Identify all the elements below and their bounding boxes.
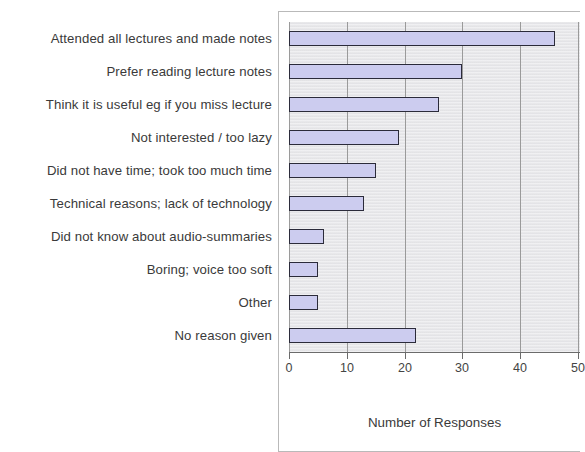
bar-slot [289, 22, 580, 57]
bar[interactable] [289, 328, 416, 343]
bar[interactable] [289, 196, 364, 211]
x-tick-label: 10 [340, 361, 354, 375]
bar-slot [289, 220, 580, 255]
x-tick-label: 0 [286, 361, 293, 375]
bar-slot [289, 121, 580, 156]
bar-slot [289, 55, 580, 90]
x-tick-mark [520, 353, 521, 359]
x-tick-label: 40 [513, 361, 527, 375]
bar[interactable] [289, 229, 324, 244]
x-tick-mark [578, 353, 579, 359]
category-label: Attended all lectures and made notes [0, 31, 272, 46]
plot-area [289, 22, 580, 352]
category-axis-labels: Attended all lectures and made notesPref… [0, 22, 272, 352]
bar[interactable] [289, 295, 318, 310]
bar[interactable] [289, 31, 555, 46]
x-tick-mark [347, 353, 348, 359]
bar-slot [289, 286, 580, 321]
category-label: No reason given [0, 328, 272, 343]
category-label: Did not know about audio-summaries [0, 229, 272, 244]
category-label: Boring; voice too soft [0, 262, 272, 277]
bar[interactable] [289, 262, 318, 277]
x-tick-label: 50 [571, 361, 585, 375]
x-tick-mark [289, 353, 290, 359]
x-tick-mark [405, 353, 406, 359]
bar[interactable] [289, 130, 399, 145]
category-label: Prefer reading lecture notes [0, 64, 272, 79]
bar[interactable] [289, 64, 462, 79]
x-tick-mark [462, 353, 463, 359]
x-tick-label: 30 [455, 361, 469, 375]
category-label: Other [0, 295, 272, 310]
bar-slot [289, 253, 580, 288]
x-axis-line [289, 352, 580, 353]
bar-slot [289, 88, 580, 123]
x-tick-label: 20 [398, 361, 412, 375]
bar[interactable] [289, 97, 439, 112]
category-label: Did not have time; took too much time [0, 163, 272, 178]
category-label: Not interested / too lazy [0, 130, 272, 145]
category-label: Technical reasons; lack of technology [0, 196, 272, 211]
x-axis-title: Number of Responses [289, 415, 580, 430]
bar-slot [289, 187, 580, 222]
bar[interactable] [289, 163, 376, 178]
category-label: Think it is useful eg if you miss lectur… [0, 97, 272, 112]
bar-slot [289, 154, 580, 189]
bar-slot [289, 319, 580, 352]
